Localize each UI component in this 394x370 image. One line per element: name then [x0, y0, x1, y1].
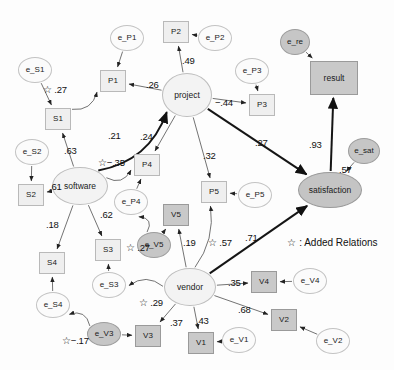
node-e-p5[interactable]: e_P5 — [238, 182, 272, 208]
node-label: P1 — [108, 77, 118, 85]
node-label: e_P1 — [118, 34, 137, 42]
node-v3[interactable]: V3 — [135, 325, 161, 347]
node-label: P3 — [257, 101, 267, 109]
node-label: V1 — [196, 339, 206, 347]
node-p4[interactable]: P4 — [134, 154, 160, 176]
node-label: e_S3 — [100, 281, 119, 289]
node-e-p3[interactable]: e_P3 — [235, 58, 269, 84]
lbl-57-sat: .57 — [339, 165, 352, 175]
lbl-71: .71 — [245, 233, 258, 243]
lbl-44: −.44 — [215, 98, 233, 108]
node-e-v2[interactable]: e_V2 — [316, 328, 350, 354]
node-label: e_P5 — [246, 191, 265, 199]
edge-e-p4-to-p4 — [137, 179, 141, 189]
edge-e-p2-to-p2 — [192, 34, 197, 35]
edge-e-v3-to-e-s4 — [69, 313, 90, 326]
node-e-v1[interactable]: e_V1 — [222, 327, 256, 353]
node-label: e_V2 — [324, 337, 343, 345]
node-e-v4[interactable]: e_V4 — [293, 268, 327, 294]
node-label: P2 — [171, 28, 181, 36]
lbl-star-57: ☆ .57 — [208, 238, 232, 248]
lbl-68: .68 — [238, 305, 251, 315]
node-p5[interactable]: P5 — [201, 181, 227, 203]
node-result[interactable]: result — [310, 61, 358, 95]
sem-path-diagram: e_S1e_S2e_S3e_S4e_P1e_P2e_P3e_P4e_P5e_V1… — [0, 0, 394, 370]
node-label: project — [174, 91, 200, 100]
node-label: V3 — [143, 332, 153, 340]
node-e-s2[interactable]: e_S2 — [15, 139, 49, 165]
node-e-s1[interactable]: e_S1 — [18, 57, 52, 83]
node-s2[interactable]: S2 — [18, 184, 44, 206]
node-label: S2 — [26, 191, 36, 199]
node-v1[interactable]: V1 — [188, 332, 214, 354]
node-s1[interactable]: S1 — [45, 108, 71, 130]
lbl-star-m35: ☆−.35 — [98, 158, 125, 168]
node-label: e_sat — [354, 147, 374, 155]
node-e-p1[interactable]: e_P1 — [110, 25, 144, 51]
node-label: V2 — [279, 316, 289, 324]
lbl-star-m17: ☆−.17 — [62, 336, 89, 346]
edge-vendor-to-v5 — [179, 229, 186, 267]
node-e-s4[interactable]: e_S4 — [36, 292, 70, 318]
edge-satisfaction-to-result — [331, 98, 334, 171]
node-s3[interactable]: S3 — [95, 239, 121, 261]
lbl-61: .61 — [49, 182, 62, 192]
node-label: satisfaction — [309, 186, 352, 195]
lbl-21: .21 — [108, 131, 121, 141]
edge-e-v5-to-e-p4 — [139, 217, 150, 232]
lbl-star-27-v5p4: ☆ .27 — [126, 243, 150, 253]
node-p3[interactable]: P3 — [249, 94, 275, 116]
node-vendor[interactable]: vendor — [164, 268, 216, 306]
lbl-star-27-s1p1: ☆ .27 — [43, 85, 67, 95]
node-label: S3 — [103, 246, 113, 254]
lbl-62: .62 — [100, 210, 113, 220]
node-label: e_V1 — [230, 336, 249, 344]
edge-e-p1-to-p1 — [118, 52, 123, 67]
node-e-s3[interactable]: e_S3 — [92, 272, 126, 298]
lbl-24: .24 — [140, 132, 153, 142]
lbl-63: .63 — [64, 146, 77, 156]
lbl-49: .49 — [182, 56, 195, 66]
lbl-93: .93 — [309, 140, 322, 150]
node-p2[interactable]: P2 — [163, 21, 189, 43]
lbl-37: .37 — [170, 318, 183, 328]
lbl-32: .32 — [203, 151, 216, 161]
node-label: result — [324, 74, 345, 83]
node-label: e_re — [287, 38, 303, 46]
node-label: e_P2 — [206, 34, 225, 42]
node-e-re[interactable]: e_re — [280, 29, 310, 55]
edge-e-p5-to-p5 — [230, 193, 237, 194]
node-v4[interactable]: V4 — [251, 271, 277, 293]
node-e-v3[interactable]: e_V3 — [87, 322, 121, 346]
edge-vendor-to-e-s3 — [129, 279, 163, 286]
node-project[interactable]: project — [162, 73, 212, 117]
node-v5[interactable]: V5 — [163, 204, 189, 226]
node-s4[interactable]: S4 — [39, 252, 65, 274]
edge-e-v5-to-v5 — [163, 229, 166, 233]
lbl-18: .18 — [46, 220, 59, 230]
node-label: vendor — [177, 283, 203, 292]
node-label: V5 — [171, 211, 181, 219]
lbl-27-proj-sat: .27 — [255, 138, 268, 148]
node-label: e_P4 — [122, 198, 141, 206]
node-satisfaction[interactable]: satisfaction — [298, 172, 362, 208]
node-label: e_S4 — [44, 301, 63, 309]
node-label: S4 — [47, 259, 57, 267]
edge-project-to-p5 — [193, 117, 210, 178]
edge-s1-to-p1 — [72, 92, 97, 109]
node-label: P5 — [209, 188, 219, 196]
legend-text: : Added Relations — [299, 237, 377, 248]
node-e-p4[interactable]: e_P4 — [114, 189, 148, 215]
lbl-star-29: ☆ .29 — [139, 298, 163, 308]
node-p1[interactable]: P1 — [100, 70, 126, 92]
node-label: e_P3 — [243, 67, 262, 75]
node-e-sat[interactable]: e_sat — [348, 138, 380, 164]
edge-e-p3-to-p3 — [256, 85, 258, 91]
node-e-p2[interactable]: e_P2 — [198, 25, 232, 51]
node-v2[interactable]: V2 — [271, 309, 297, 331]
lbl-26: .26 — [146, 80, 159, 90]
lbl-35: .35 — [228, 278, 241, 288]
edge-software-to-s4 — [57, 205, 73, 249]
node-label: S1 — [53, 115, 63, 123]
edge-e-re-to-result — [306, 52, 312, 58]
